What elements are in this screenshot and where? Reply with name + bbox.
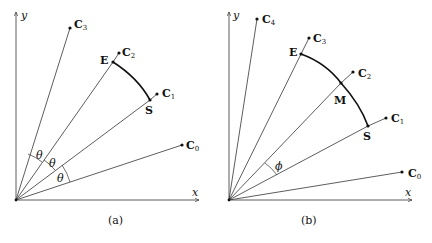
point-c0 xyxy=(400,170,403,173)
ray-c2-extension xyxy=(113,53,119,62)
point-m xyxy=(339,81,342,84)
point-s xyxy=(148,98,151,101)
label-c3: C3 xyxy=(74,18,87,32)
caption-a: (a) xyxy=(108,214,123,227)
label-s: S xyxy=(363,130,371,143)
point-c3 xyxy=(307,36,310,39)
ray-e xyxy=(229,54,301,200)
point-e xyxy=(111,60,114,63)
point-c2 xyxy=(117,51,120,54)
ray-m xyxy=(229,83,341,200)
y-axis-label: y xyxy=(232,9,240,22)
label-e: E xyxy=(289,46,297,59)
point-s xyxy=(366,124,369,127)
ray-c1-extension xyxy=(368,118,386,126)
y-axis-label: y xyxy=(20,9,28,22)
point-e xyxy=(299,52,302,55)
label-c0: C0 xyxy=(408,167,421,181)
point-c4 xyxy=(255,17,258,20)
label-c1: C1 xyxy=(162,87,175,101)
point-c0 xyxy=(180,143,183,146)
caption-b: (b) xyxy=(301,214,317,227)
ray-e xyxy=(16,62,113,200)
point-c1 xyxy=(155,92,158,95)
label-c2: C2 xyxy=(122,46,135,60)
ray-c3-extension xyxy=(301,38,309,54)
label-s: S xyxy=(145,104,153,117)
panel-b: x y ϕ C0 C1 C2 C3 C4 E M S (b) xyxy=(228,9,422,227)
theta-label-2: θ xyxy=(49,157,56,170)
x-axis-label: x xyxy=(405,186,412,199)
ray-c4 xyxy=(229,19,257,200)
point-c1 xyxy=(384,116,387,119)
point-c3 xyxy=(68,26,71,29)
label-c0: C0 xyxy=(186,139,199,153)
label-c4: C4 xyxy=(262,13,276,27)
label-m: M xyxy=(334,94,346,107)
x-axis-label: x xyxy=(192,186,199,199)
theta-label-3: θ xyxy=(36,149,43,162)
origin-point xyxy=(15,199,18,202)
label-c2: C2 xyxy=(358,67,371,81)
label-c1: C1 xyxy=(391,112,404,126)
ray-c2-extension xyxy=(341,72,353,83)
theta-label-1: θ xyxy=(57,172,64,185)
point-c2 xyxy=(351,70,354,73)
arc-e-to-s xyxy=(113,62,150,100)
label-c3: C3 xyxy=(313,32,326,46)
panel-a: x y θ θ θ C0 C1 C2 C3 E S (a) xyxy=(15,9,200,227)
phi-label: ϕ xyxy=(275,160,283,173)
origin-point xyxy=(228,199,231,202)
label-e: E xyxy=(100,54,108,67)
figure: x y θ θ θ C0 C1 C2 C3 E S (a) x y xyxy=(0,0,432,243)
